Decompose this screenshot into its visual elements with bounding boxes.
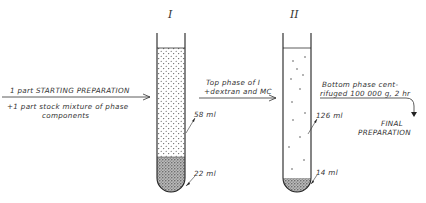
tube-1-bottom-phase [157,157,185,192]
step1-line3: components [42,111,89,120]
tube-2-bottom-phase [283,178,311,192]
step2-line2: +dextran and MC [204,87,272,96]
tube-1-bottom-volume: 22 ml [194,169,216,178]
final-line1: FINAL [381,119,403,128]
tube-1-label: I [168,8,172,21]
tube-2 [283,33,317,192]
tube-2-top-volume: 126 ml [316,111,343,120]
step3-line1: Bottom phase cent- [322,80,398,89]
step2-line1: Top phase of I [206,78,260,87]
step1-line1: 1 part STARTING PREPARATION [10,86,130,95]
final-line2: PREPARATION [358,128,411,137]
step3-line2: rifuged 100 000 g, 2 hr [320,89,410,98]
tube-2-bottom-volume: 14 ml [316,168,338,177]
tube-2-outline [283,33,311,192]
tube-2-label: II [290,8,299,21]
step1-line2: +1 part stock mixture of phase [7,102,128,111]
tube-1-top-volume: 58 ml [194,110,216,119]
tube-1 [157,33,195,192]
